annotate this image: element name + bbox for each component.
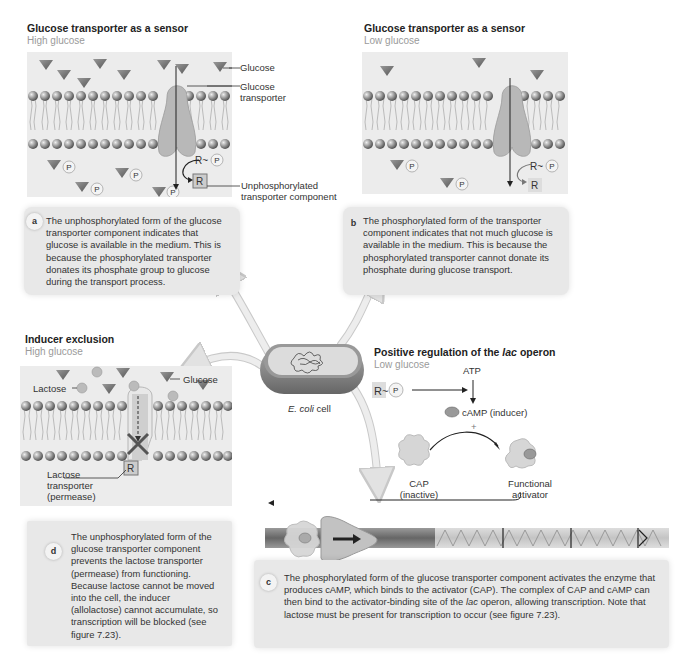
label-atp: ATP	[463, 365, 481, 376]
note-d: d The unphosphorylated form of the gluco…	[27, 521, 232, 646]
svg-text:R~: R~	[374, 385, 388, 397]
panel-title: Glucose transporter as a sensor	[364, 22, 525, 34]
panel-title: Glucose transporter as a sensor	[27, 22, 188, 34]
membrane-diagram-low: PPP R~ R	[362, 52, 568, 194]
membrane-illustration: PPP R~ R	[362, 52, 568, 194]
label-glucose-transporter: Glucose transporter	[240, 81, 286, 103]
membrane-diagram-high: PPPPP R~ R	[27, 52, 232, 197]
svg-text:R: R	[196, 176, 203, 187]
label-plus: +	[471, 421, 477, 432]
note-text: The phosphorylated form of the glucose t…	[284, 572, 659, 621]
leader-lines	[207, 65, 241, 195]
svg-text:P: P	[549, 162, 554, 171]
label-glucose: Glucose	[240, 62, 275, 73]
panel-subtitle: High glucose	[27, 35, 188, 46]
note-text: The unphosphorylated form of the glucose…	[46, 215, 230, 288]
svg-text:P: P	[459, 180, 464, 189]
label-camp: cAMP (inducer)	[462, 407, 527, 418]
panel-subtitle: Low glucose	[364, 35, 525, 46]
panel-low-glucose-sensor: Glucose transporter as a sensor Low gluc…	[364, 22, 525, 46]
note-a: a The unphosphorylated form of the gluco…	[24, 207, 240, 295]
note-text: The unphosphorylated form of the glucose…	[71, 531, 222, 641]
label-lactose-permease: Lactose transporter (permease)	[47, 469, 96, 502]
svg-text:P: P	[393, 386, 398, 395]
return-arrow-head	[268, 498, 378, 508]
svg-text:R~: R~	[530, 161, 543, 172]
note-text: The phosphorylated form of the transport…	[363, 215, 559, 276]
label-unphosphorylated-component: Unphosphorylated transporter component	[241, 180, 337, 202]
note-c: c The phosphorylated form of the glucose…	[254, 560, 669, 648]
note-badge-b: b	[345, 215, 362, 232]
svg-text:P: P	[170, 188, 175, 197]
svg-text:P: P	[66, 163, 71, 172]
note-b: b The phosphorylated form of the transpo…	[343, 207, 569, 295]
ecoli-cell-icon	[258, 340, 368, 398]
label-cap-inactive: CAP (inactive)	[396, 478, 442, 500]
camp-icon	[445, 407, 459, 417]
note-badge-c: c	[260, 574, 277, 591]
panel-title: Inducer exclusion	[25, 333, 114, 345]
cap-inactive-icon	[399, 435, 430, 466]
note-badge-a: a	[26, 213, 43, 230]
label-functional-activator: Functional activator	[503, 478, 557, 500]
svg-text:P: P	[409, 162, 414, 171]
svg-text:R: R	[127, 463, 134, 474]
panel-inducer-exclusion: Inducer exclusion High glucose	[25, 333, 114, 357]
note-badge-d: d	[45, 543, 62, 560]
svg-text:P: P	[133, 171, 138, 180]
membrane-illustration: PPPPP R~ R	[27, 52, 232, 197]
svg-text:R: R	[531, 180, 538, 191]
panel-title: Positive regulation of the lac operon	[374, 346, 555, 358]
lac-operon-dna	[265, 516, 670, 564]
svg-text:P: P	[94, 185, 99, 194]
label-lactose: Lactose	[33, 383, 66, 394]
panel-subtitle: High glucose	[25, 346, 114, 357]
label-glucose: Glucose	[183, 374, 218, 385]
panel-high-glucose-sensor: Glucose transporter as a sensor High glu…	[27, 22, 188, 46]
label-ecoli-cell: E. coli cell	[288, 403, 331, 414]
